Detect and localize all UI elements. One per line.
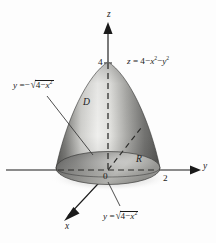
lower-boundary-equation-label: y =−√4−x2 bbox=[13, 80, 54, 90]
surface-equation-label: z = 4−x2−y2 bbox=[127, 57, 169, 66]
solid-region-label-D: D bbox=[83, 97, 90, 107]
z-axis-tick-label-4: 4 bbox=[98, 58, 103, 67]
upper-boundary-equation-label: y =√4−x2 bbox=[103, 211, 138, 221]
z-axis bbox=[103, 22, 112, 63]
y-axis-label: y bbox=[203, 162, 207, 171]
base-region-label-R: R bbox=[136, 154, 142, 164]
z-axis-label: z bbox=[107, 10, 111, 19]
paraboloid-figure-svg bbox=[0, 0, 216, 243]
figure-container: z = 4−x2−y2 y =−√4−x2 y =√4−x2 D R 4 2 0… bbox=[0, 0, 216, 243]
x-axis-label: x bbox=[65, 222, 69, 231]
origin-label: 0 bbox=[103, 172, 108, 181]
y-axis-tick-label-2: 2 bbox=[163, 174, 168, 183]
